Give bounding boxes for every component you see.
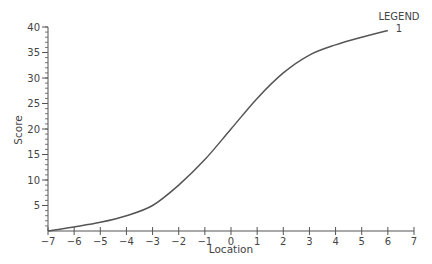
- x-tick-label: −3: [145, 236, 160, 247]
- line-chart: 510152025303540 −7−6−5−4−3−2−101234567 L…: [0, 0, 432, 264]
- x-tick-label: 1: [254, 236, 260, 247]
- legend: 1: [396, 23, 402, 34]
- x-tick-label: −7: [41, 236, 56, 247]
- x-tick-label: 3: [306, 236, 312, 247]
- y-tick-label: 35: [27, 47, 40, 58]
- y-tick-label: 40: [27, 22, 40, 33]
- legend-entry: 1: [396, 23, 402, 34]
- series-line: [48, 31, 388, 231]
- x-tick-label: 4: [332, 236, 338, 247]
- x-tick-label: −2: [171, 236, 186, 247]
- y-axis: 510152025303540: [27, 22, 48, 232]
- x-tick-label: 5: [359, 236, 365, 247]
- legend-title: LEGEND: [378, 11, 419, 22]
- x-tick-label: −5: [93, 236, 108, 247]
- y-axis-title: Score: [12, 115, 24, 144]
- x-axis-title: Location: [209, 243, 253, 255]
- y-tick-label: 20: [27, 124, 40, 135]
- y-tick-label: 25: [27, 98, 40, 109]
- y-tick-label: 5: [34, 200, 40, 211]
- y-tick-label: 10: [27, 175, 40, 186]
- series-group: [48, 31, 388, 231]
- x-tick-label: −6: [67, 236, 82, 247]
- y-tick-label: 30: [27, 73, 40, 84]
- x-tick-label: 7: [411, 236, 417, 247]
- x-tick-label: 2: [280, 236, 286, 247]
- y-tick-label: 15: [27, 149, 40, 160]
- x-tick-label: 6: [385, 236, 391, 247]
- x-tick-label: −4: [119, 236, 134, 247]
